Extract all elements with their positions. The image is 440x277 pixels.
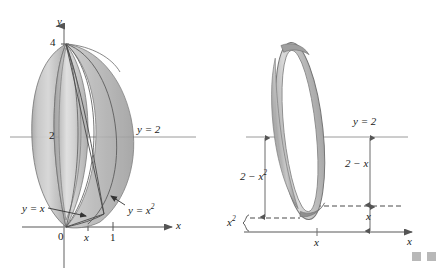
left-ytick-label-4: 4 bbox=[50, 37, 56, 48]
left-axis-of-revolution-label: y = 2 bbox=[137, 124, 160, 135]
washer-ring bbox=[266, 40, 332, 222]
left-origin-label: 0 bbox=[58, 231, 64, 242]
right-outer-radius-label: 2 − x2 bbox=[240, 169, 267, 182]
right-outer-radius-label-exponent: 2 bbox=[263, 168, 267, 177]
left-curve-label-parabola: y = x2 bbox=[128, 203, 154, 216]
left-ytick-label-2: 2 bbox=[49, 130, 55, 141]
page-corner-square-1 bbox=[412, 252, 421, 261]
left-xtick-label-x: x bbox=[84, 232, 89, 243]
left-curve-label-parabola-base: y = x bbox=[128, 204, 151, 216]
figure-svg bbox=[0, 0, 440, 277]
left-xtick-label-1: 1 bbox=[110, 232, 116, 243]
left-curve-label-line: y = x bbox=[22, 203, 45, 214]
left-curve-label-parabola-exponent: 2 bbox=[151, 202, 155, 211]
left-x-axis-label: x bbox=[176, 220, 181, 231]
right-xtick-label: x bbox=[314, 237, 319, 248]
right-lower-offset-label: x2 bbox=[227, 215, 236, 228]
right-x-axis-label: x bbox=[407, 236, 412, 247]
right-lower-offset-label-exponent: 2 bbox=[232, 214, 236, 223]
right-outer-radius-label-base: 2 − x bbox=[240, 170, 263, 182]
left-y-axis-label: y bbox=[57, 16, 62, 27]
right-panel-graphics bbox=[243, 40, 412, 236]
left-panel-graphics bbox=[10, 26, 196, 268]
math-figure-root: y x 4 2 0 x 1 y = 2 y = x y = x2 y = 2 2… bbox=[0, 0, 440, 277]
right-axis-of-revolution-label: y = 2 bbox=[353, 116, 376, 127]
right-inner-radius-label: 2 − x bbox=[345, 158, 368, 169]
brace-x-squared bbox=[243, 215, 249, 231]
page-corner-square-2 bbox=[427, 252, 436, 261]
right-inner-height-label: x bbox=[366, 211, 371, 222]
